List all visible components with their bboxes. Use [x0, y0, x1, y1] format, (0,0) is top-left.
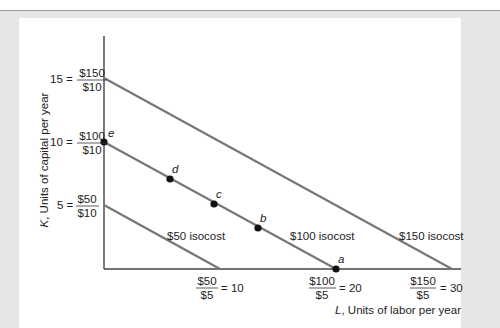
point-a: [332, 265, 339, 272]
y-tick-10: 10 = $100 $10: [50, 130, 107, 156]
isocost-100-label: $100 isocost: [290, 230, 355, 242]
x-tick-10: $50 $5 = 10: [196, 275, 244, 301]
y-axis-title: K, Units of capital per year: [38, 92, 50, 227]
svg-text:$100: $100: [309, 275, 335, 287]
point-e-label: e: [108, 127, 114, 139]
svg-text:5 =: 5 =: [57, 199, 74, 211]
isocost-50-label: $50 isocost: [167, 230, 226, 242]
isocost-150-label: $150 isocost: [399, 230, 464, 242]
svg-text:= 20: = 20: [339, 282, 362, 294]
point-d-label: d: [172, 163, 179, 175]
svg-text:$10: $10: [82, 81, 101, 93]
svg-text:$5: $5: [316, 289, 329, 301]
svg-text:$150: $150: [79, 67, 105, 79]
svg-text:$50: $50: [197, 275, 216, 287]
point-a-label: a: [338, 253, 344, 265]
point-c-label: c: [216, 188, 222, 200]
x-tick-30: $150 $5 = 30: [410, 275, 463, 301]
svg-text:$5: $5: [417, 289, 430, 301]
x-axis-title: L, Units of labor per year: [335, 304, 461, 316]
isocost-100-line: [104, 142, 336, 269]
svg-text:= 10: = 10: [221, 282, 244, 294]
svg-text:$10: $10: [77, 207, 96, 219]
svg-text:$10: $10: [82, 144, 101, 156]
svg-text:$150: $150: [410, 275, 436, 287]
y-tick-15: 15 = $150 $10: [50, 67, 107, 93]
svg-text:$100: $100: [79, 130, 105, 142]
isocost-chart: e d c b a $50 isocost $100 isocost $150 …: [0, 0, 500, 328]
point-b: [254, 224, 261, 231]
point-d: [166, 175, 173, 182]
x-tick-20: $100 $5 = 20: [309, 275, 362, 301]
svg-text:10 =: 10 =: [50, 136, 73, 148]
svg-text:= 30: = 30: [440, 282, 463, 294]
svg-text:$5: $5: [201, 289, 214, 301]
point-b-label: b: [260, 212, 267, 224]
y-tick-5: 5 = $50 $10: [57, 193, 99, 219]
point-c: [210, 200, 217, 207]
svg-text:15 =: 15 =: [50, 73, 73, 85]
svg-text:$50: $50: [77, 193, 96, 205]
